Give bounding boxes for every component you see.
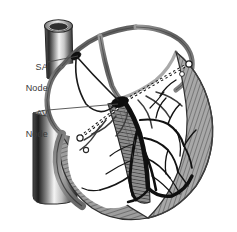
av-node-label-line2: Node	[26, 129, 48, 139]
sa-node-label: SA Node	[14, 51, 48, 93]
heart-conduction-diagram: SA Node AV Node	[0, 0, 237, 232]
sa-node-label-line2: Node	[26, 83, 48, 93]
av-node-label: AV Node	[14, 97, 48, 139]
av-node-label-line1: AV	[36, 108, 48, 118]
sa-node-label-line1: SA	[36, 62, 48, 72]
